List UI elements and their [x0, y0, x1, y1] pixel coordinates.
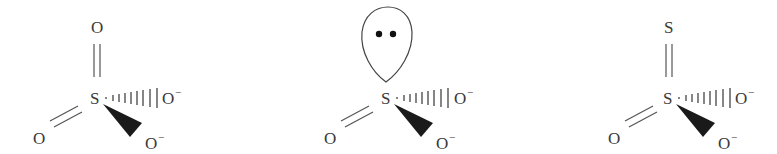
atom-right-o: O [735, 89, 747, 108]
double-bond-left-line-1 [50, 106, 78, 121]
atom-top-s: S [664, 18, 673, 37]
hashed-wedge-bond [106, 88, 157, 108]
double-bond-left-line-2 [345, 112, 373, 127]
atom-right-o: O [162, 89, 174, 108]
double-bond-left-line-1 [625, 106, 653, 121]
atom-left-o: O [33, 129, 45, 148]
charge-right: − [467, 86, 473, 98]
charge-bottom: − [449, 131, 455, 143]
lone-pair-electron [376, 31, 382, 37]
structure-sulfite: S O − O O − [324, 7, 473, 153]
atom-center-s: S [381, 89, 390, 108]
charge-right: − [748, 86, 754, 98]
charge-right: − [175, 86, 181, 98]
lone-pair-electron [390, 31, 396, 37]
molecule-diagram: O S O − O O − S [0, 0, 777, 154]
solid-wedge-bond [103, 104, 142, 137]
double-bond-left-line-2 [629, 112, 657, 127]
atom-right-o: O [454, 89, 466, 108]
structure-sulfate: O S O − O O − [33, 18, 181, 153]
solid-wedge-bond [394, 104, 433, 137]
charge-bottom: − [158, 131, 164, 143]
atom-left-o: O [324, 129, 336, 148]
atom-left-o: O [608, 129, 620, 148]
charge-bottom: − [731, 131, 737, 143]
hashed-wedge-bond [679, 88, 730, 108]
lone-pair-lobe [362, 7, 412, 82]
atom-bottom-o: O [145, 134, 157, 153]
double-bond-left-line-1 [341, 106, 369, 121]
atom-bottom-o: O [436, 134, 448, 153]
solid-wedge-bond [676, 104, 715, 137]
hashed-wedge-bond [397, 88, 448, 108]
structure-thiosulfate: S S O − O O − [608, 18, 754, 153]
atom-center-s: S [663, 89, 672, 108]
atom-bottom-o: O [718, 134, 730, 153]
atom-center-s: S [90, 89, 99, 108]
double-bond-left-line-2 [54, 112, 82, 127]
atom-top-o: O [91, 18, 103, 37]
